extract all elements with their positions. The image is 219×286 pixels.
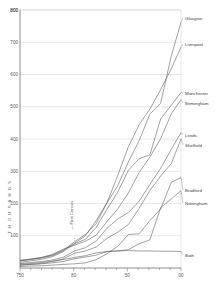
series-line-sheffield (20, 139, 181, 264)
leader-line (181, 100, 183, 103)
leader-line (181, 139, 183, 145)
series-label-glasgow: Glasgow (185, 16, 203, 21)
series-line-nottingham (20, 191, 181, 265)
first-census-label: — First Census (69, 201, 74, 230)
leader-line (181, 252, 183, 255)
series-line-manchester (20, 93, 181, 263)
y-tick-label: 700 (10, 40, 18, 45)
x-tick-label: 50 (125, 273, 131, 278)
series-label-bath: Bath (185, 253, 195, 258)
y-axis-title: T H O U S A N D S (7, 180, 12, 234)
series-label-nottingham: Nottingham (185, 201, 208, 206)
leader-line (181, 178, 183, 190)
series-paths (20, 22, 181, 266)
x-tick-labels: 750805000 (16, 273, 184, 278)
leader-line (181, 133, 183, 135)
y-tick-label: 500 (10, 104, 18, 109)
series-line-liverpool (20, 47, 181, 261)
series-label-liverpool: Liverpool (185, 42, 203, 47)
series-label-birmingham: Birmingham (185, 101, 209, 106)
chart-canvas: 100200300400500600700800800 750805000 Gl… (0, 0, 219, 286)
y-tick-label: 600 (10, 72, 18, 77)
series-label-manchester: Manchester (185, 91, 208, 96)
x-tick-label: 750 (16, 273, 24, 278)
leader-line (181, 18, 183, 22)
x-tick-label: 00 (178, 273, 184, 278)
series-line-glasgow (20, 22, 181, 260)
series-label-bradford: Bradford (185, 188, 202, 193)
x-tick-marks (20, 268, 181, 272)
x-tick-label: 80 (71, 273, 77, 278)
annotations: — First Census (69, 201, 74, 230)
series-line-bradford (20, 178, 181, 267)
y-axis-title-text: T H O U S A N D S (7, 180, 12, 234)
series-leader-lines (181, 18, 183, 255)
leader-line (181, 191, 183, 203)
y-axis-max-label: 800 (10, 8, 18, 13)
leader-line (181, 44, 183, 47)
series-label-sheffield: Sheffield (185, 143, 203, 148)
series-line-bath (20, 251, 181, 266)
y-tick-label: 400 (10, 137, 18, 142)
series-labels: GlasgowLiverpoolManchesterBirminghamLeed… (185, 16, 209, 258)
population-line-chart: 100200300400500600700800800 750805000 Gl… (0, 0, 219, 286)
series-label-leeds: Leeds (185, 133, 198, 138)
y-tick-label: 300 (10, 169, 18, 174)
